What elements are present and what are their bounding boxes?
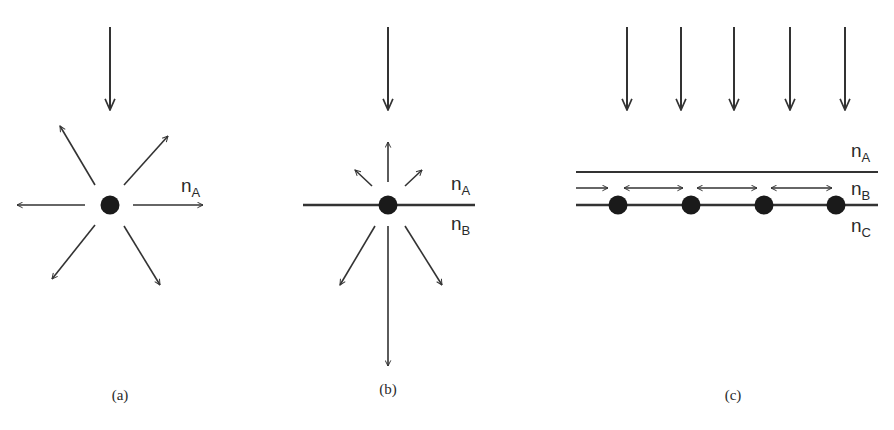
medium-label-nB: nB [451,213,470,238]
medium-label-nA: nA [181,175,201,200]
scatterer-dot [379,196,398,215]
medium-label-nA: nA [851,140,871,165]
incident-light-arrows [627,27,845,110]
panel-a: nA (a) [17,27,203,404]
panel-caption-b: (b) [379,381,397,398]
scattered-light-arrows [340,142,442,366]
panel-c: nA nB nC (c) [576,27,878,404]
panel-caption-c: (c) [725,387,742,404]
diagram-canvas: nA (a) nA nB (b) [0,0,894,430]
medium-label-nB: nB [851,178,870,203]
medium-label-nA: nA [451,173,471,198]
panel-b: nA nB (b) [303,27,475,398]
medium-label-nC: nC [851,215,871,240]
scatterer-dot [101,196,120,215]
panel-caption-a: (a) [112,387,129,404]
